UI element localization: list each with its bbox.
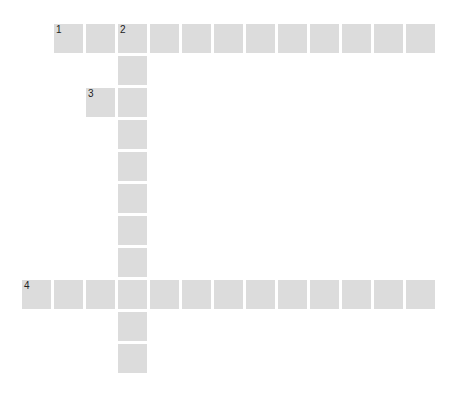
crossword-cell[interactable] [118, 56, 147, 85]
crossword-cell[interactable] [118, 216, 147, 245]
crossword-grid: 1234 [0, 0, 453, 396]
crossword-cell[interactable] [246, 280, 275, 309]
crossword-cell[interactable] [406, 280, 435, 309]
crossword-cell[interactable] [246, 24, 275, 53]
crossword-cell[interactable] [342, 280, 371, 309]
crossword-cell[interactable] [406, 24, 435, 53]
crossword-cell[interactable] [86, 24, 115, 53]
crossword-cell[interactable]: 4 [22, 280, 51, 309]
clue-number: 4 [24, 281, 30, 291]
crossword-cell[interactable] [182, 24, 211, 53]
crossword-cell[interactable] [310, 24, 339, 53]
crossword-cell[interactable] [374, 280, 403, 309]
clue-number: 1 [56, 25, 62, 35]
crossword-cell[interactable]: 3 [86, 88, 115, 117]
clue-number: 3 [88, 89, 94, 99]
crossword-cell[interactable]: 2 [118, 24, 147, 53]
crossword-cell[interactable] [150, 280, 179, 309]
crossword-cell[interactable] [118, 88, 147, 117]
crossword-cell[interactable] [118, 248, 147, 277]
crossword-cell[interactable] [214, 280, 243, 309]
crossword-cell[interactable]: 1 [54, 24, 83, 53]
crossword-cell[interactable] [118, 152, 147, 181]
clue-number: 2 [120, 25, 126, 35]
crossword-cell[interactable] [118, 344, 147, 373]
crossword-cell[interactable] [278, 280, 307, 309]
crossword-cell[interactable] [278, 24, 307, 53]
crossword-cell[interactable] [118, 312, 147, 341]
crossword-cell[interactable] [182, 280, 211, 309]
crossword-cell[interactable] [342, 24, 371, 53]
crossword-cell[interactable] [118, 280, 147, 309]
crossword-cell[interactable] [54, 280, 83, 309]
crossword-cell[interactable] [118, 184, 147, 213]
crossword-cell[interactable] [214, 24, 243, 53]
crossword-cell[interactable] [150, 24, 179, 53]
crossword-cell[interactable] [86, 280, 115, 309]
crossword-cell[interactable] [310, 280, 339, 309]
crossword-cell[interactable] [374, 24, 403, 53]
crossword-cell[interactable] [118, 120, 147, 149]
